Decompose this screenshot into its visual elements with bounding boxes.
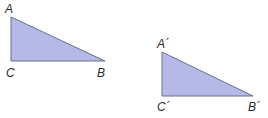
label-vertex-b-prime: B´ (248, 100, 260, 114)
label-vertex-c: C (6, 66, 15, 80)
triangle-a-prime-b-prime-c-prime (162, 52, 253, 96)
label-vertex-c-prime: C´ (157, 100, 170, 114)
label-vertex-a-prime: A´ (156, 37, 169, 51)
triangle-abc (11, 17, 105, 61)
similar-triangles-diagram: A C B A´ C´ B´ (0, 0, 268, 118)
label-vertex-b: B (97, 66, 105, 80)
label-vertex-a: A (4, 2, 13, 16)
